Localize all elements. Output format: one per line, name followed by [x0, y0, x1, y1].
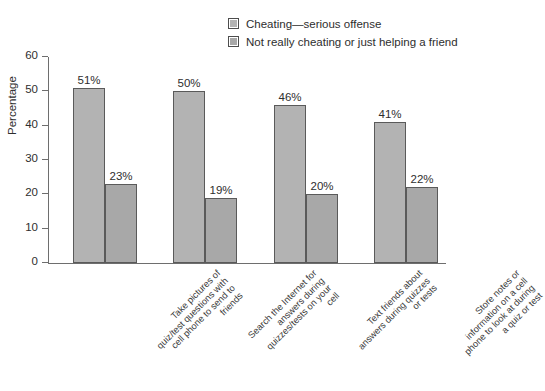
bar-value-label: 23%	[109, 170, 132, 183]
bar-series-1-category-1: 51%	[73, 88, 105, 263]
y-axis-tick: 40	[42, 125, 48, 126]
bar-value-label: 46%	[278, 91, 301, 104]
y-axis-tick: 50	[42, 90, 48, 91]
legend-item: Cheating—serious offense	[228, 16, 458, 31]
y-axis-tick: 10	[42, 228, 48, 229]
bar-value-label: 50%	[177, 77, 200, 90]
bar-series-2-category-1: 23%	[105, 184, 137, 263]
y-axis-tick-label: 50	[25, 83, 38, 96]
legend-item: Not really cheating or just helping a fr…	[228, 34, 458, 49]
y-axis-tick-label: 0	[32, 255, 38, 268]
bar-series-2-category-4: 22%	[406, 187, 438, 263]
bar-value-label: 19%	[209, 184, 232, 197]
y-axis-title: Percentage	[6, 76, 18, 135]
bar-value-label: 41%	[378, 108, 401, 121]
bar-value-label: 51%	[77, 74, 100, 87]
y-axis-tick: 60	[42, 56, 48, 57]
legend-swatch-series-1	[228, 18, 239, 29]
y-axis-tick: 0	[42, 262, 48, 263]
bar-series-1-category-3: 46%	[274, 105, 306, 263]
bar-series-2-category-3: 20%	[306, 194, 338, 263]
legend-swatch-series-2	[228, 36, 239, 47]
chart-plot-area: 0102030405060 51%23%50%19%46%20%41%22%	[48, 57, 446, 264]
x-axis-label-category-2: Search the Internet foranswers duringqui…	[246, 268, 341, 363]
bar-series-1-category-2: 50%	[173, 91, 205, 263]
bar-value-label: 22%	[410, 173, 433, 186]
legend-label-series-2: Not really cheating or just helping a fr…	[246, 36, 458, 48]
legend-label-series-1: Cheating—serious offense	[246, 18, 381, 30]
bar-value-label: 20%	[310, 180, 333, 193]
y-axis-tick-label: 20	[25, 186, 38, 199]
x-axis-label-category-1: Take pictures ofquiz/test questions with…	[147, 268, 245, 366]
x-axis-label-category-4: Store notes orinformation on a cellphone…	[448, 268, 545, 365]
bar-series-2-category-2: 19%	[205, 198, 237, 263]
y-axis-line	[48, 57, 49, 264]
x-axis-line	[48, 263, 446, 264]
bar-series-1-category-4: 41%	[374, 122, 406, 263]
x-axis-label-category-3: Text friends aboutanswers during quizzes…	[348, 268, 439, 359]
x-axis-label-line: answers during quizzes	[356, 275, 432, 351]
y-axis-tick: 30	[42, 159, 48, 160]
chart-legend: Cheating—serious offense Not really chea…	[228, 16, 458, 49]
y-axis-tick-label: 10	[25, 221, 38, 234]
y-axis-tick-label: 30	[25, 152, 38, 165]
y-axis-tick: 20	[42, 193, 48, 194]
y-axis-tick-label: 40	[25, 118, 38, 131]
y-axis-tick-label: 60	[25, 49, 38, 62]
